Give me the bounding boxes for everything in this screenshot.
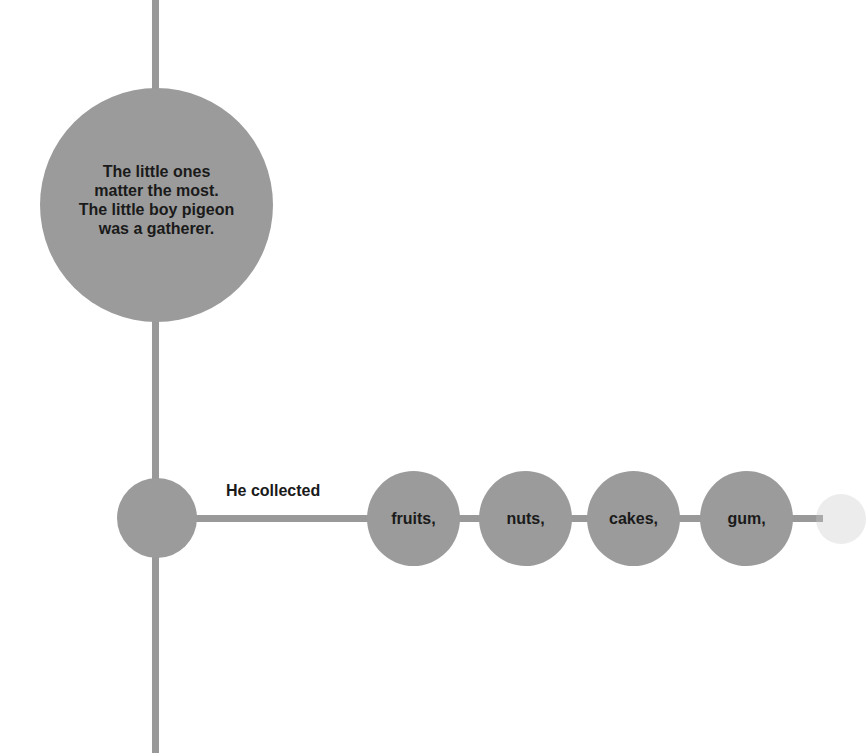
item-label: gum, — [727, 510, 765, 528]
item-label: cakes, — [609, 510, 658, 528]
item-node-gum: gum, — [700, 471, 793, 566]
item-node-fruits: fruits, — [367, 471, 460, 566]
item-label: fruits, — [391, 510, 435, 528]
item-node-nuts: nuts, — [479, 471, 572, 566]
branch-node — [117, 478, 197, 558]
branch-label: He collected — [226, 482, 320, 500]
main-story-text: The little ones matter the most. The lit… — [79, 162, 235, 238]
item-node-cakes: cakes, — [587, 471, 680, 566]
main-story-bubble: The little ones matter the most. The lit… — [40, 88, 273, 322]
offscreen-item-node — [816, 494, 866, 544]
item-label: nuts, — [506, 510, 544, 528]
